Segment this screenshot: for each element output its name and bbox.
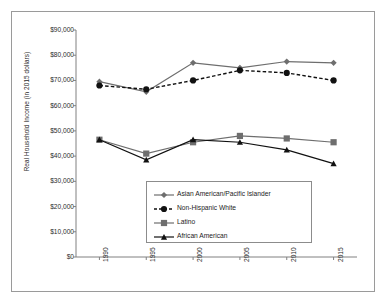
series-3 — [96, 133, 336, 157]
x-tick-label: 2005 — [243, 247, 250, 262]
legend-marker-icon — [153, 215, 175, 227]
series-1 — [96, 58, 336, 94]
x-tick-label: 1995 — [149, 247, 156, 262]
legend-item-label: Latino — [177, 218, 195, 225]
x-tick-label: 1990 — [102, 247, 109, 262]
legend-item[interactable]: Latino — [147, 214, 311, 228]
chart-legend: Asian American/Pacific IslanderNon-Hispa… — [146, 181, 312, 243]
x-tick-label: 2010 — [290, 247, 297, 262]
legend-marker-icon — [153, 187, 175, 199]
series-4 — [96, 137, 336, 167]
legend-item-label: Asian American/Pacific Islander — [177, 190, 271, 197]
chart-container: Real Household Income (in 2015 dollars) … — [0, 0, 388, 303]
plot-area — [0, 0, 388, 303]
x-tick-label: 2000 — [196, 247, 203, 262]
legend-item-label: Non-Hispanic White — [177, 204, 236, 211]
legend-item[interactable]: Asian American/Pacific Islander — [147, 186, 311, 200]
legend-marker-icon — [153, 201, 175, 213]
legend-item[interactable]: African American — [147, 228, 311, 242]
legend-item-label: African American — [177, 232, 228, 239]
legend-marker-icon — [153, 229, 175, 241]
legend-item[interactable]: Non-Hispanic White — [147, 200, 311, 214]
x-tick-label: 2015 — [337, 247, 344, 262]
